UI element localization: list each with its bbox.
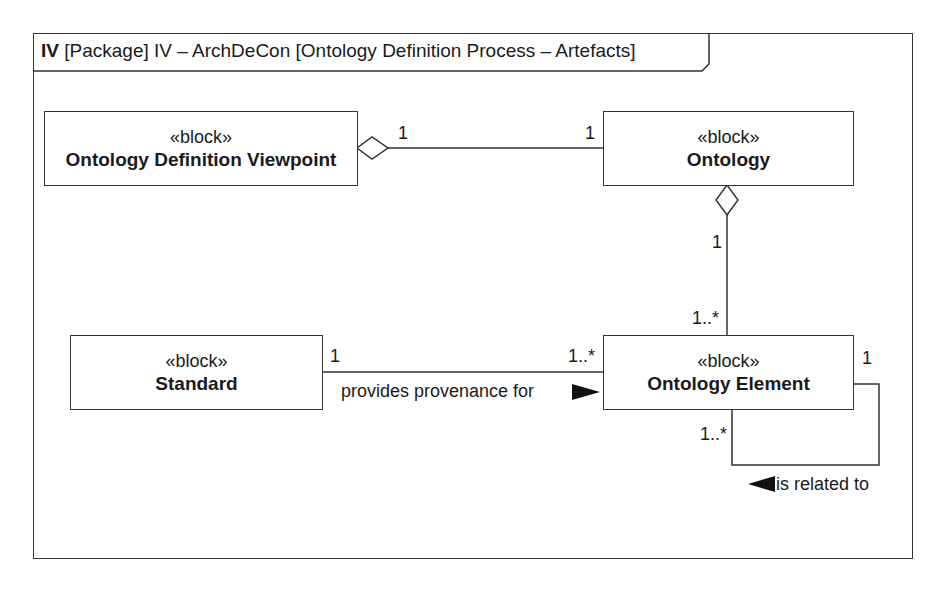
multiplicity-label: 1 bbox=[398, 123, 408, 143]
multiplicity-label: 1 bbox=[712, 232, 722, 252]
multiplicity-label: 1..* bbox=[692, 308, 719, 328]
block-ontology[interactable]: «block» Ontology bbox=[603, 111, 854, 186]
association-label: is related to bbox=[776, 474, 869, 494]
stereotype-label: «block» bbox=[697, 350, 759, 372]
block-name: Standard bbox=[155, 372, 237, 396]
association-label: provides provenance for bbox=[341, 381, 534, 401]
block-ontology-definition-viewpoint[interactable]: «block» Ontology Definition Viewpoint bbox=[44, 111, 358, 186]
direction-arrow-right-icon bbox=[572, 384, 600, 400]
multiplicity-label: 1 bbox=[862, 348, 872, 368]
frame-title: IV [Package] IV – ArchDeCon [Ontology De… bbox=[33, 33, 710, 71]
multiplicity-label: 1..* bbox=[568, 346, 595, 366]
block-name: Ontology Definition Viewpoint bbox=[66, 148, 337, 172]
aggregation-diamond-icon bbox=[357, 137, 388, 159]
multiplicity-label: 1 bbox=[585, 123, 595, 143]
block-name: Ontology bbox=[687, 148, 770, 172]
direction-arrow-left-icon bbox=[748, 476, 775, 492]
stereotype-label: «block» bbox=[170, 126, 232, 148]
frame-title-text: [Package] IV – ArchDeCon [Ontology Defin… bbox=[64, 40, 635, 61]
stereotype-label: «block» bbox=[165, 350, 227, 372]
block-ontology-element[interactable]: «block» Ontology Element bbox=[603, 335, 854, 410]
connectors-layer bbox=[0, 0, 946, 589]
aggregation-diamond-icon bbox=[716, 185, 738, 215]
multiplicity-label: 1 bbox=[330, 346, 340, 366]
frame-kind: IV bbox=[41, 40, 59, 61]
block-standard[interactable]: «block» Standard bbox=[70, 335, 323, 410]
block-name: Ontology Element bbox=[647, 372, 810, 396]
multiplicity-label: 1..* bbox=[700, 424, 727, 444]
stereotype-label: «block» bbox=[697, 126, 759, 148]
